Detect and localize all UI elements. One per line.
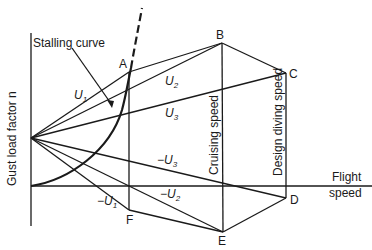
point-D-label: D [290, 193, 299, 207]
label-minus-u3: −U3 [157, 153, 178, 169]
point-F-label: F [126, 213, 133, 227]
point-C-label: C [289, 67, 298, 81]
stalling-curve-label: Stalling curve [33, 36, 105, 50]
stalling-curve-dashed [131, 8, 142, 68]
edge-D-E [223, 198, 286, 232]
edge-A-B [129, 43, 222, 72]
label-u1: U1 [74, 88, 87, 104]
label-minus-u2: −U2 [160, 187, 181, 203]
point-E-label: E [218, 234, 226, 248]
label-minus-u1: −U1 [97, 194, 117, 210]
arrowhead-icon [107, 100, 114, 108]
x-axis-label-line1: Flight [332, 170, 362, 184]
cruising-speed-label: Cruising speed [207, 95, 221, 175]
cruising-speed-line [222, 43, 223, 232]
design-diving-speed-label: Design diving speed [271, 68, 285, 176]
label-u2: U2 [165, 74, 179, 90]
edge-F-E [129, 210, 223, 232]
stalling-curve [31, 68, 131, 186]
label-u3: U3 [165, 106, 179, 122]
x-axis-label-line2: speed [329, 186, 362, 200]
gust-line-minus-u1 [31, 138, 129, 210]
y-axis-label: Gust load factor n [5, 91, 19, 186]
gust-line-minus-u3 [31, 138, 286, 198]
gust-line-u3 [31, 73, 286, 138]
gust-envelope-diagram: Gust load factor n Flight speed Stalling… [0, 0, 372, 250]
point-A-label: A [119, 57, 127, 71]
point-B-label: B [216, 28, 224, 42]
